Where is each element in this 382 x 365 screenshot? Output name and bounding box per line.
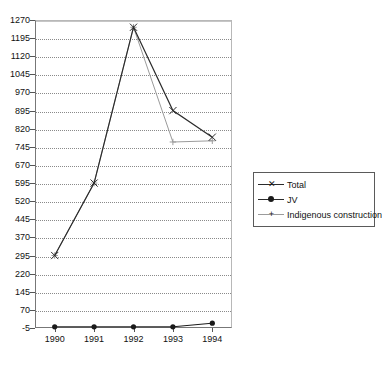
legend-item[interactable]: JV (257, 192, 370, 207)
series-indigenous-construction (52, 24, 216, 259)
series-jv (52, 321, 215, 330)
legend-marker-icon: + (257, 209, 285, 221)
legend: ✕TotalJV+Indigenous construction (253, 172, 375, 227)
legend-marker-icon: ✕ (257, 179, 285, 191)
data-point-marker (92, 324, 97, 329)
legend-item[interactable]: +Indigenous construction (257, 207, 370, 222)
data-point-marker (209, 138, 215, 144)
data-point-marker (52, 324, 57, 329)
legend-marker-icon (257, 194, 285, 206)
data-point-marker (131, 324, 136, 329)
data-point-marker (169, 107, 176, 114)
legend-item-label: JV (285, 195, 298, 205)
legend-item-label: Total (285, 180, 306, 190)
data-point-marker (170, 139, 176, 145)
data-point-marker (170, 324, 175, 329)
legend-item-label: Indigenous construction (285, 210, 382, 220)
legend-item[interactable]: ✕Total (257, 177, 370, 192)
data-point-marker (210, 321, 215, 326)
series-line (55, 27, 213, 255)
